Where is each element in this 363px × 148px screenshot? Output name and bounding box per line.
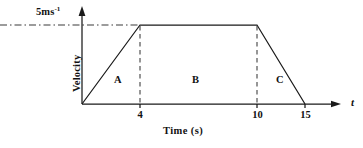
x-tick-label-15: 15 <box>297 110 314 121</box>
level-exponent-text: -1 <box>54 5 60 13</box>
x-axis-title: Time (s) <box>163 126 203 137</box>
velocity-time-graph-figure: 5ms-1 Velocity A B C 4 10 15 t Time (s) <box>0 0 363 148</box>
x-axis-symbol-label: t <box>351 97 354 108</box>
x-tick-label-10: 10 <box>249 110 266 121</box>
level-value-label: 5ms-1 <box>36 7 60 18</box>
level-value-text: 5ms <box>36 6 54 17</box>
region-label-b: B <box>192 75 199 86</box>
x-tick-label-4: 4 <box>133 110 147 121</box>
region-label-a: A <box>114 75 122 86</box>
y-axis-arrow-icon <box>79 6 86 16</box>
region-label-c: C <box>276 75 284 86</box>
x-axis-arrow-icon <box>331 101 341 107</box>
velocity-profile-line <box>82 25 305 104</box>
y-axis-title: Velocity <box>72 55 83 92</box>
